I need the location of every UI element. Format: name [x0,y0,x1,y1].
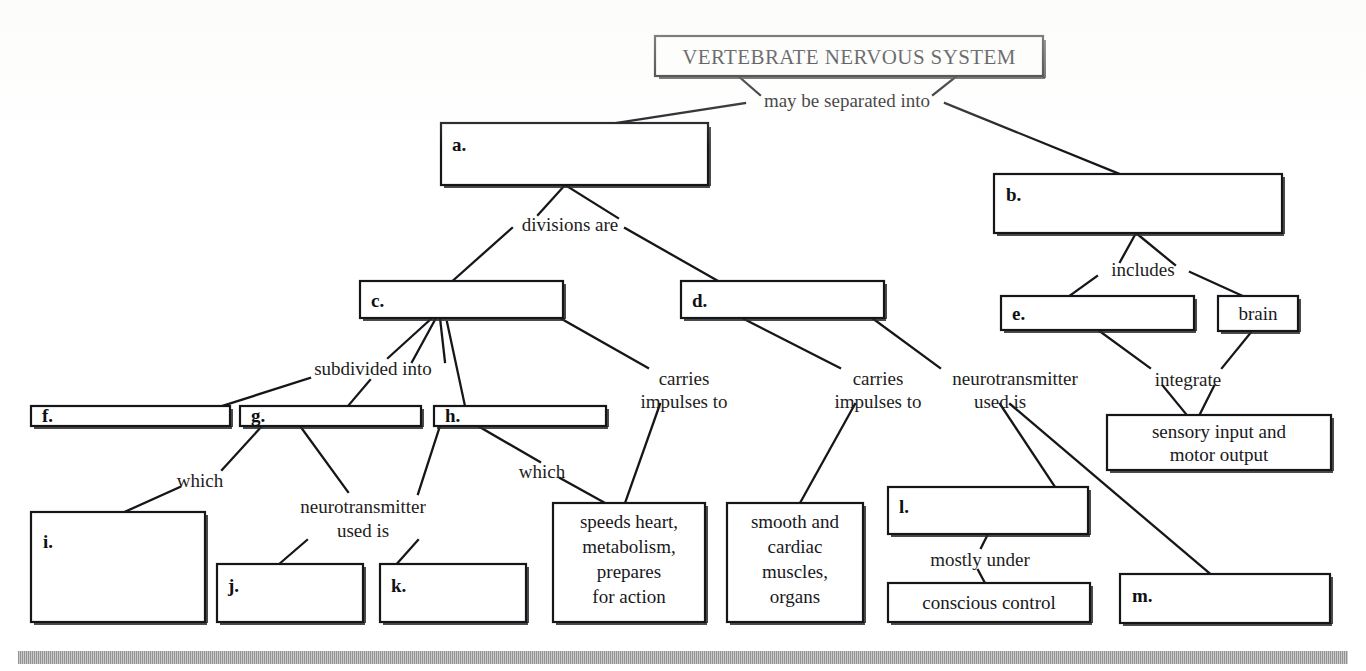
node-g-key: g. [251,405,265,426]
connector-c-sub3 [440,318,445,362]
node-f-key: f. [42,405,53,426]
node-d: d. [681,281,887,321]
node-j: j. [217,564,366,625]
node-root-label: VERTEBRATE NERVOUS SYSTEM [682,45,1016,69]
node-i: i. [31,512,208,625]
connector-a-left [538,185,565,215]
node-i-key: i. [43,531,53,552]
connector-which-i [120,487,180,514]
connector-carries2-target [800,404,855,503]
connector-g-neuro [300,426,348,492]
link-label-which-1: which [177,470,224,491]
node-speeds-heart-line1: speeds heart, [580,511,678,532]
connector-d-neurotransmitter [872,318,940,368]
node-conscious-control-label: conscious control [922,592,1056,613]
link-label-carries-impulses-to-2-line1: carries [853,368,904,389]
connector-to-brain [1190,272,1245,297]
link-label-integrate: integrate [1155,369,1221,390]
node-c-key: c. [371,290,384,311]
link-label-carries-impulses-to-1-line2: impulses to [640,391,727,412]
connector-neuro1-j [278,540,307,565]
link-label-neurotransmitter-used-is-2-line1: neurotransmitter [952,368,1078,389]
node-smooth-cardiac-line3: muscles, [762,561,828,582]
link-label-divisions-are: divisions are [522,214,619,235]
connector-c-carries [560,318,648,368]
node-m: m. [1120,574,1333,626]
node-root: VERTEBRATE NERVOUS SYSTEM [655,36,1046,79]
node-speeds-heart-line4: for action [592,586,666,607]
node-smooth-cardiac-line4: organs [770,586,820,607]
connector-to-a [610,103,745,124]
node-f: f. [31,405,233,429]
node-k-key: k. [391,575,406,596]
connector-to-e [1068,276,1097,297]
node-a: a. [441,123,711,188]
node-speeds-heart-line3: prepares [597,561,661,582]
link-label-which-2: which [519,461,566,482]
connector-to-d [625,228,725,285]
node-h-key: h. [445,405,460,426]
link-label-includes: includes [1111,259,1174,280]
node-c: c. [360,281,566,321]
link-label-carries-impulses-to-2-line2: impulses to [834,391,921,412]
connector-e-integrate [1098,330,1150,368]
node-b-key: b. [1006,184,1021,205]
node-smooth-cardiac-line2: cardiac [768,536,823,557]
node-b: b. [994,174,1285,236]
link-label-subdivided-into: subdivided into [314,358,432,379]
connector-integrate-left [1163,386,1186,414]
node-a-key: a. [452,134,466,155]
node-l: l. [888,487,1091,537]
node-speeds-heart-line2: metabolism, [582,536,675,557]
node-e-key: e. [1012,303,1025,324]
connector-which2-speeds [560,478,605,503]
connector-mostly-conscious [978,570,985,583]
node-speeds-heart: speeds heart, metabolism, prepares for a… [553,503,708,625]
node-j-key: j. [227,575,239,596]
link-label-neurotransmitter-used-is-1-line2: used is [337,520,389,541]
footer-rule [18,651,1348,664]
connector-brain-integrate [1222,331,1252,368]
node-sensory-motor-line2: motor output [1170,444,1269,465]
link-label-mostly-under: mostly under [930,549,1030,570]
node-m-key: m. [1132,585,1153,606]
node-g: g. [240,405,424,429]
node-brain-label: brain [1238,303,1278,324]
connector-to-g [348,380,370,406]
connector-d-carries [742,318,840,368]
concept-map-diagram: VERTEBRATE NERVOUS SYSTEM a. b. c. [0,0,1366,671]
connector-to-h [447,322,465,406]
link-label-carries-impulses-to-1-line1: carries [659,368,710,389]
node-l-key: l. [899,496,909,517]
node-h: h. [434,405,609,429]
node-e: e. [1001,296,1197,333]
connector-to-b [945,103,1122,175]
link-label-may-be-separated-into: may be separated into [764,90,930,111]
connector-neuro2-to-l [1000,404,1055,487]
concept-map-canvas: VERTEBRATE NERVOUS SYSTEM a. b. c. [0,0,1366,671]
node-conscious-control: conscious control [888,583,1093,625]
connector-g-which [222,426,262,470]
connector-integrate-right [1200,386,1214,414]
connector-to-f [222,378,310,406]
node-brain: brain [1218,296,1301,334]
connector-h-neuro [418,426,440,494]
node-sensory-motor: sensory input and motor output [1107,415,1334,473]
connector-b-left [1120,233,1136,262]
node-sensory-motor-line1: sensory input and [1152,421,1287,442]
connector-to-c [448,228,512,285]
link-label-neurotransmitter-used-is-1-line1: neurotransmitter [300,496,426,517]
node-k: k. [380,564,529,625]
node-smooth-cardiac-line1: smooth and [751,511,840,532]
connector-neuro1-k [395,540,418,566]
link-label-neurotransmitter-used-is-2-line2: used is [974,391,1026,412]
connector-h-which [478,426,540,462]
node-smooth-cardiac: smooth and cardiac muscles, organs [727,503,866,625]
connector-carries1-target [625,404,660,503]
node-d-key: d. [692,290,707,311]
